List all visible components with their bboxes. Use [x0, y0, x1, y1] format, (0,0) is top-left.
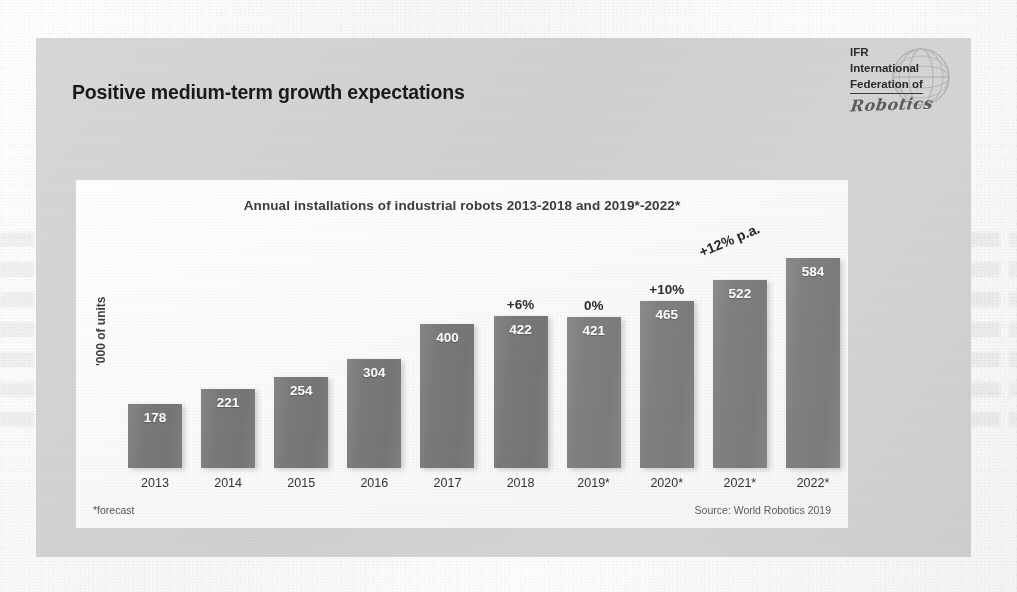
bar-2020-forecast[interactable]: 465 — [640, 301, 694, 468]
bar-value-label: 400 — [420, 330, 474, 345]
bar-2018[interactable]: 422 — [494, 316, 548, 468]
x-axis-tick-label: 2015 — [268, 476, 334, 490]
bar-slot: 2542015 — [274, 238, 328, 468]
x-axis-tick-label: 2018 — [488, 476, 554, 490]
ifr-logo: IFR International Federation of Robotics — [848, 43, 966, 131]
chart-title: Annual installations of industrial robot… — [76, 198, 848, 213]
bar-slot: 4002017 — [420, 238, 474, 468]
bar-value-label: 422 — [494, 322, 548, 337]
footnote-source: Source: World Robotics 2019 — [695, 504, 831, 516]
bar-value-label: 254 — [274, 383, 328, 398]
bar-2016[interactable]: 304 — [347, 359, 401, 468]
x-axis-tick-label: 2021* — [707, 476, 773, 490]
presentation-slide: Positive medium-term growth expectations… — [36, 38, 971, 557]
bar-value-label: 522 — [713, 286, 767, 301]
bar-slot: 5222021* — [713, 238, 767, 468]
x-axis-tick-label: 2020* — [634, 476, 700, 490]
bar-2013[interactable]: 178 — [128, 404, 182, 468]
x-axis-tick-label: 2013 — [122, 476, 188, 490]
y-axis-label: '000 of units — [94, 296, 108, 366]
bar-2015[interactable]: 254 — [274, 377, 328, 468]
ifr-logo-script-word: Robotics — [850, 94, 935, 116]
bar-value-label: 421 — [567, 323, 621, 338]
ifr-logo-line-1: IFR — [850, 47, 869, 59]
bar-slot: 4210%2019* — [567, 238, 621, 468]
bar-value-label: 304 — [347, 365, 401, 380]
bar-2019-forecast[interactable]: 421 — [567, 317, 621, 468]
bar-growth-label: 0% — [563, 298, 625, 313]
slide-title: Positive medium-term growth expectations — [72, 81, 465, 104]
bar-slot: 1782013 — [128, 238, 182, 468]
bar-slot: 3042016 — [347, 238, 401, 468]
bar-2014[interactable]: 221 — [201, 389, 255, 468]
x-axis-tick-label: 2016 — [341, 476, 407, 490]
ifr-logo-line-2: International — [850, 63, 919, 75]
bar-slot: 5842022* — [786, 238, 840, 468]
ifr-logo-line-3: Federation of — [850, 79, 923, 94]
bar-2017[interactable]: 400 — [420, 324, 474, 468]
bar-growth-label: +6% — [490, 297, 552, 312]
bar-slot: 465+10%2020* — [640, 238, 694, 468]
x-axis-tick-label: 2019* — [561, 476, 627, 490]
bar-2021-forecast[interactable]: 522 — [713, 280, 767, 468]
chart-panel: Annual installations of industrial robot… — [76, 180, 848, 528]
bar-2022-forecast[interactable]: 584 — [786, 258, 840, 468]
footnote-forecast: *forecast — [93, 504, 134, 516]
bar-growth-label: +10% — [636, 282, 698, 297]
bar-value-label: 465 — [640, 307, 694, 322]
bar-slot: 422+6%2018 — [494, 238, 548, 468]
x-axis-tick-label: 2017 — [414, 476, 480, 490]
bar-value-label: 221 — [201, 395, 255, 410]
x-axis-tick-label: 2014 — [195, 476, 261, 490]
bar-chart-plot-area: +12% p.a. 178201322120142542015304201640… — [128, 238, 840, 468]
bar-value-label: 584 — [786, 264, 840, 279]
x-axis-tick-label: 2022* — [780, 476, 846, 490]
bar-slot: 2212014 — [201, 238, 255, 468]
bar-value-label: 178 — [128, 410, 182, 425]
